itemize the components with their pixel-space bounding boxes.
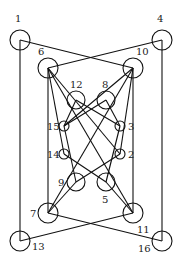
node-label-4: 4 <box>157 13 163 24</box>
node-label-3: 3 <box>128 121 134 132</box>
graph-diagram: 14610128153142957111316 <box>0 0 186 263</box>
node-label-6: 6 <box>38 46 44 57</box>
edge-10-15 <box>64 68 133 126</box>
edge-11-13 <box>20 213 133 241</box>
node-label-7: 7 <box>30 208 36 219</box>
node-label-12: 12 <box>70 79 83 90</box>
edge-10-2 <box>120 68 133 154</box>
node-label-16: 16 <box>138 243 151 254</box>
edge-5-11 <box>106 182 133 213</box>
node-label-1: 1 <box>15 13 21 24</box>
node-label-14: 14 <box>47 149 60 160</box>
node-label-15: 15 <box>47 121 60 132</box>
node-label-10: 10 <box>136 46 149 57</box>
node-label-8: 8 <box>102 79 108 90</box>
edge-14-5 <box>64 154 106 182</box>
edge-6-2 <box>48 68 120 154</box>
node-label-13: 13 <box>32 241 45 252</box>
node-label-11: 11 <box>137 224 150 235</box>
edge-1-10 <box>20 40 133 68</box>
node-label-5: 5 <box>102 194 108 205</box>
edges-layer <box>20 40 162 241</box>
node-label-9: 9 <box>58 177 64 188</box>
node-label-2: 2 <box>128 149 134 160</box>
